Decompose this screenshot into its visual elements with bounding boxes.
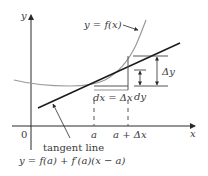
curve-f — [14, 20, 146, 86]
dy-label: dy — [134, 91, 146, 102]
tangent-leader — [53, 104, 70, 138]
a-plus-dx-label: a + Δx — [113, 129, 147, 140]
dx-label: dx = Δx — [93, 92, 133, 103]
delta-y-label: Δy — [161, 66, 175, 77]
x-axis-label: x — [190, 128, 196, 139]
curve-leader — [123, 25, 138, 30]
origin-label: 0 — [21, 129, 27, 140]
curve-label: y = f(x) — [83, 19, 122, 30]
a-label: a — [91, 129, 97, 140]
y-axis-label: y — [20, 10, 27, 21]
differential-diagram: y x 0 y = f(x) dx = Δx dy Δy a a + Δx ta… — [0, 0, 208, 176]
tangent-equation: y = f(a) + f′(a)(x − a) — [18, 155, 126, 166]
tangent-caption: tangent line — [43, 142, 104, 153]
